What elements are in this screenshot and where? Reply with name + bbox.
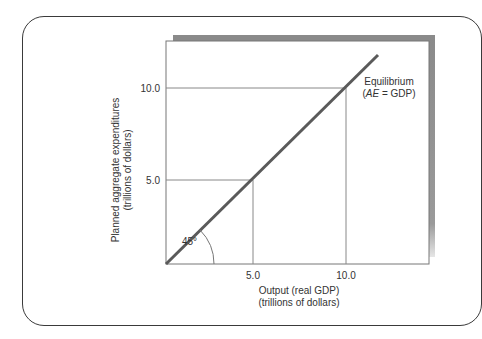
- equilibrium-label: Equilibrium: [364, 76, 413, 87]
- y-axis-sublabel: (trillions of dollars): [122, 129, 133, 210]
- plot-area: [166, 41, 429, 264]
- x-axis-label: Output (real GDP): [259, 285, 340, 296]
- x-tick-5: 5.0: [246, 270, 260, 281]
- y-tick-10: 10.0: [141, 83, 161, 94]
- plot-shadow-right: [429, 35, 435, 257]
- x-tick-10: 10.0: [336, 270, 356, 281]
- x-axis-sublabel: (trillions of dollars): [258, 297, 339, 308]
- y-axis-label: Planned aggregate expenditures: [110, 98, 121, 243]
- angle-label: 45°: [182, 236, 197, 247]
- y-tick-5: 5.0: [146, 175, 160, 186]
- plot-shadow-top: [173, 35, 435, 41]
- equilibrium-sublabel: (AE = GDP): [362, 88, 415, 99]
